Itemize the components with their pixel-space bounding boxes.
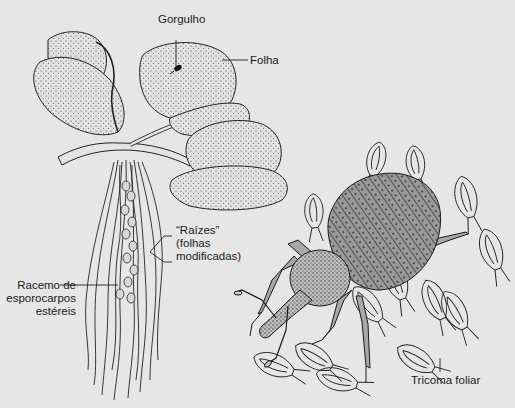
- label-leaf: Folha: [250, 54, 279, 67]
- leaf: [170, 166, 287, 210]
- label-raceme-line1: Racemo de: [0, 279, 76, 292]
- label-roots-line1: “Raízes”: [176, 224, 219, 237]
- label-trichome: Tricoma foliar: [411, 374, 480, 387]
- leaf: [34, 57, 124, 134]
- label-raceme-line2: esporocarpos: [0, 292, 76, 305]
- label-roots-line3: modificadas): [176, 250, 241, 263]
- label-weevil: Gorgulho: [158, 13, 205, 26]
- label-raceme-line3: estéreis: [0, 305, 76, 318]
- label-roots-line2: (folhas: [176, 237, 211, 250]
